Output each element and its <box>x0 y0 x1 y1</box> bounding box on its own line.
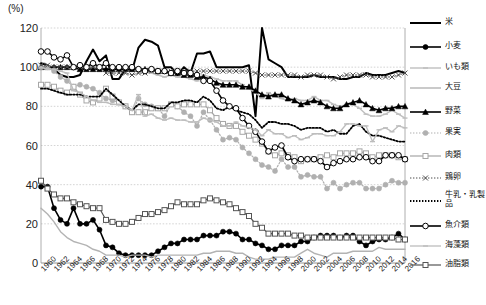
legend-item-4[interactable]: 野菜 <box>409 103 485 117</box>
legend-swatch-icon <box>409 238 442 250</box>
legend-item-10[interactable]: 海藻類 <box>409 237 485 251</box>
legend-swatch-icon <box>409 80 442 92</box>
legend-swatch-icon <box>409 148 442 160</box>
legend-item-7[interactable]: 鶏卵 <box>409 169 485 183</box>
legend-item-2[interactable]: いも類 <box>409 59 485 73</box>
legend-swatch-icon <box>409 60 442 72</box>
legend-label: 大豆 <box>445 82 485 91</box>
legend-swatch-icon <box>409 104 442 116</box>
legend-label: 鶏卵 <box>445 172 485 181</box>
legend-item-9[interactable]: 魚介類 <box>409 217 485 231</box>
legend-label: 肉類 <box>445 150 485 159</box>
legend-label: 米 <box>445 17 485 26</box>
legend-swatch-icon <box>409 193 442 205</box>
legend-swatch-icon <box>409 39 442 51</box>
legend-item-3[interactable]: 大豆 <box>409 79 485 93</box>
legend-item-1[interactable]: 小麦 <box>409 38 485 52</box>
chart-caption <box>0 293 486 305</box>
legend-label: 海藻類 <box>445 240 485 249</box>
chart-legend: 米小麦いも類大豆野菜果実肉類鶏卵牛乳・乳製品魚介類海藻類油脂類 <box>409 6 486 256</box>
legend-item-6[interactable]: 肉類 <box>409 147 485 161</box>
chart-container: (%) 020406080100120 19601962196419661968… <box>0 0 486 305</box>
legend-label: いも類 <box>445 62 485 71</box>
legend-label: 野菜 <box>445 106 485 115</box>
legend-item-5[interactable]: 果実 <box>409 124 485 138</box>
legend-swatch-icon <box>409 257 442 269</box>
legend-item-11[interactable]: 油脂類 <box>409 256 485 270</box>
legend-label: 果実 <box>445 127 485 136</box>
legend-swatch-icon <box>409 15 442 27</box>
legend-swatch-icon <box>409 170 442 182</box>
legend-label: 油脂類 <box>445 259 485 268</box>
legend-item-0[interactable]: 米 <box>409 14 485 28</box>
legend-swatch-icon <box>409 125 442 137</box>
legend-label: 小麦 <box>445 41 485 50</box>
legend-swatch-icon <box>409 218 442 230</box>
legend-item-8[interactable]: 牛乳・乳製品 <box>409 192 485 206</box>
legend-label: 牛乳・乳製品 <box>445 190 485 208</box>
legend-label: 魚介類 <box>445 220 485 229</box>
